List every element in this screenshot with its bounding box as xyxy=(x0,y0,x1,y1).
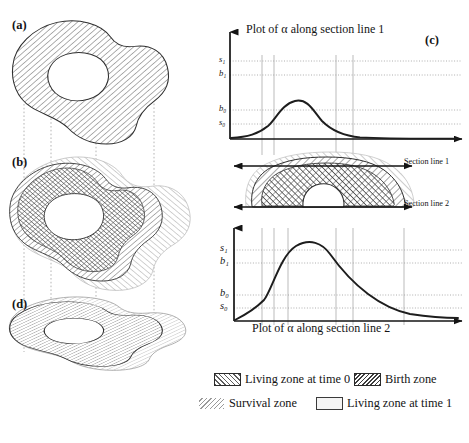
panel-d-living-zone-time1 xyxy=(9,297,185,370)
legend-item-living-zone-time0: Living zone at time 0 xyxy=(214,372,350,387)
alpha-curve-2 xyxy=(235,242,458,320)
legend-label-survival-zone: Survival zone xyxy=(229,396,297,411)
legend-item-birth-zone: Birth zone xyxy=(354,372,437,387)
legend: Living zone at time 0 Birth zone Surviva… xyxy=(196,366,469,424)
ytick-bottom-b0: b₀ xyxy=(220,287,229,298)
ytick-top-s1: s₁ xyxy=(219,54,225,64)
panel-label-d: (d) xyxy=(12,297,27,312)
legend-label-living-zone-time1: Living zone at time 1 xyxy=(347,396,452,411)
ytick-top-b1: b₁ xyxy=(219,68,226,78)
ytick-bottom-b1: b₁ xyxy=(220,255,229,266)
panel-label-b: (b) xyxy=(12,155,27,170)
cross-section-blob xyxy=(234,152,414,207)
ytick-top-b0: b₀ xyxy=(219,103,226,113)
chart-section-line-2 xyxy=(234,228,462,325)
ytick-top-s0: s₀ xyxy=(219,117,225,127)
panel-b-overlay-zones xyxy=(10,157,191,290)
section-line-1-label: Section line 1 xyxy=(404,157,449,166)
panel-a-living-zone-time0 xyxy=(12,21,168,144)
swatch-survival-zone xyxy=(198,397,225,410)
chart-title-section-line-2: Plot of α along section line 2 xyxy=(252,321,390,336)
panel-label-a: (a) xyxy=(12,18,27,33)
chart-title-section-line-1: Plot of α along section line 1 xyxy=(246,22,384,37)
legend-label-living-zone-time0: Living zone at time 0 xyxy=(245,372,350,387)
legend-item-survival-zone: Survival zone xyxy=(198,396,297,411)
alpha-curve-1 xyxy=(231,101,458,139)
legend-label-birth-zone: Birth zone xyxy=(385,372,437,387)
section-line-2-label: Section line 2 xyxy=(404,199,449,208)
ytick-bottom-s1: s₁ xyxy=(220,242,228,253)
panel-label-c: (c) xyxy=(425,33,439,48)
ytick-bottom-s0: s₀ xyxy=(220,300,228,311)
swatch-living-zone-time0 xyxy=(214,373,241,386)
swatch-birth-zone xyxy=(354,373,381,386)
legend-item-living-zone-time1: Living zone at time 1 xyxy=(316,396,452,411)
swatch-living-zone-time1 xyxy=(316,397,343,410)
chart-section-line-1 xyxy=(230,32,462,155)
